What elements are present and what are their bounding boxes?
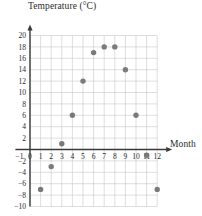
x-tick-label: 4	[71, 152, 75, 161]
y-tick-label: 4	[22, 122, 26, 131]
data-point	[70, 113, 75, 118]
x-tick-label: 7	[102, 152, 106, 161]
y-tick-label: 10	[18, 88, 26, 97]
y-tick-label: −2	[18, 157, 26, 166]
x-tick-label: 1	[39, 152, 43, 161]
data-point	[133, 113, 138, 118]
x-tick-label: 10	[132, 152, 140, 161]
y-tick-label: 8	[22, 100, 26, 109]
x-tick-label: 0	[28, 152, 32, 161]
y-tick-label: −10	[14, 202, 26, 211]
x-tick-label: 6	[92, 152, 96, 161]
y-tick-label: −4	[18, 168, 26, 177]
x-tick-label: 12	[153, 152, 161, 161]
y-axis-arrow-icon	[27, 25, 32, 31]
data-point-series	[38, 44, 160, 192]
data-point	[91, 50, 96, 55]
x-tick-label: 9	[124, 152, 128, 161]
scatter-chart: Temperature (°C) Month −1012345678910111…	[0, 0, 202, 216]
x-tick-label: 5	[81, 152, 85, 161]
data-point	[155, 187, 160, 192]
y-tick-label: 6	[22, 111, 26, 120]
y-tick-label: 14	[18, 65, 26, 74]
data-point	[102, 44, 107, 49]
data-point	[59, 141, 64, 146]
y-tick-label: −6	[18, 179, 26, 188]
gridlines	[30, 36, 157, 207]
x-tick-label: 8	[113, 152, 117, 161]
data-point	[123, 67, 128, 72]
x-tick-label: 2	[49, 152, 53, 161]
y-tick-label: 18	[18, 43, 26, 52]
y-tick-label: −8	[18, 191, 26, 200]
plot-area: −10123456789101112−10−8−6−4−224681012141…	[0, 0, 202, 216]
x-axis-arrow-icon	[166, 147, 172, 152]
y-tick-label: 12	[18, 77, 26, 86]
data-point	[38, 187, 43, 192]
data-point	[49, 164, 54, 169]
x-tick-label: 3	[60, 152, 64, 161]
y-tick-label: 16	[18, 54, 26, 63]
y-tick-label: 2	[22, 134, 26, 143]
data-point	[112, 44, 117, 49]
data-point	[144, 153, 149, 158]
data-point	[80, 78, 85, 83]
y-tick-label: 20	[18, 31, 26, 40]
